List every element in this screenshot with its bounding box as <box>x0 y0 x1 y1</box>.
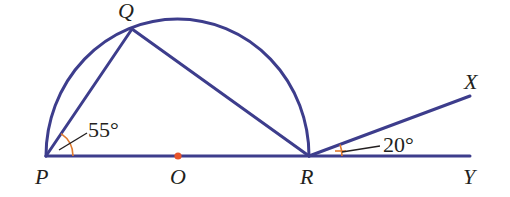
semicircle-arc <box>46 19 309 156</box>
angle-leader-R <box>342 146 380 152</box>
angle-label-55: 55° <box>88 117 119 142</box>
label-Y: Y <box>463 164 478 189</box>
chord-QR <box>132 29 309 156</box>
label-P: P <box>34 164 48 189</box>
label-R: R <box>299 164 314 189</box>
angle-label-20: 20° <box>383 132 414 157</box>
label-X: X <box>463 69 479 94</box>
geometry-figure: 55° 20° Q P O R Y X <box>0 0 510 197</box>
label-Q: Q <box>118 0 134 23</box>
label-O: O <box>170 164 186 189</box>
centre-point-O <box>174 152 181 159</box>
